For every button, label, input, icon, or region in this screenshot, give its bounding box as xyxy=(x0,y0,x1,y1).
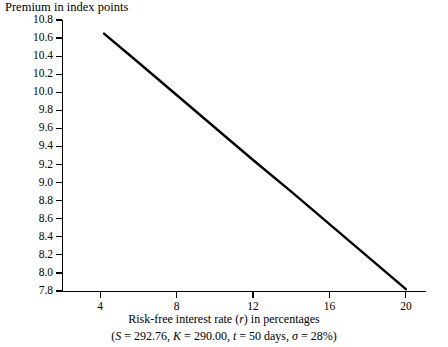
x-axis-title: Risk-free interest rate (r) in percentag… xyxy=(0,312,448,326)
y-axis-tick xyxy=(56,146,62,147)
y-axis-tick-label: 8.2 xyxy=(39,249,53,261)
y-axis-tick xyxy=(56,200,62,201)
x-axis-line xyxy=(62,291,426,292)
y-axis-tick-label: 8.8 xyxy=(39,195,53,207)
x-axis-tick-label: 4 xyxy=(97,300,103,312)
y-axis-tick xyxy=(56,164,62,165)
y-axis-tick xyxy=(56,110,62,111)
y-axis-tick-label: 7.8 xyxy=(39,285,53,297)
y-axis-tick-label: 10.8 xyxy=(33,14,53,26)
y-axis-tick xyxy=(56,218,62,219)
chart-figure: Premium in index points Risk-free intere… xyxy=(0,0,448,347)
plot-area xyxy=(62,20,425,291)
y-axis-tick xyxy=(56,56,62,57)
y-axis-tick-label: 10.6 xyxy=(33,32,53,44)
y-axis-tick-label: 9.8 xyxy=(39,104,53,116)
y-axis-tick-label: 9.2 xyxy=(39,159,53,171)
y-axis-tick-label: 9.0 xyxy=(39,177,53,189)
parameter-caption-part-8: = 28%) xyxy=(298,329,337,343)
y-axis-tick xyxy=(56,19,62,20)
y-axis-tick-label: 10.0 xyxy=(33,86,53,98)
x-axis-title-before: Risk-free interest rate ( xyxy=(128,312,239,326)
y-axis-tick xyxy=(56,290,62,291)
y-axis-tick-label: 8.4 xyxy=(39,231,53,243)
x-axis-tick xyxy=(100,292,101,298)
y-axis-tick-label: 9.4 xyxy=(39,140,53,152)
x-axis-tick xyxy=(329,292,330,298)
x-axis-tick xyxy=(176,292,177,298)
x-axis-tick-label: 20 xyxy=(400,300,412,312)
y-axis-tick xyxy=(56,272,62,273)
x-axis-tick-label: 12 xyxy=(247,300,259,312)
x-axis-tick-label: 16 xyxy=(324,300,336,312)
parameter-caption-part-2: = 292.76, xyxy=(121,329,173,343)
y-axis-tick-label: 9.6 xyxy=(39,122,53,134)
y-axis-tick xyxy=(56,236,62,237)
y-axis-tick xyxy=(56,74,62,75)
y-axis-tick xyxy=(56,254,62,255)
y-axis-tick-label: 8.6 xyxy=(39,213,53,225)
x-axis-tick xyxy=(252,292,253,298)
y-axis-title: Premium in index points xyxy=(5,0,128,14)
y-axis-tick xyxy=(56,92,62,93)
parameter-caption-part-3: K xyxy=(173,329,181,343)
y-axis-tick xyxy=(56,128,62,129)
y-axis-tick-label: 8.0 xyxy=(39,267,53,279)
y-axis-tick xyxy=(56,37,62,38)
x-axis-tick-label: 8 xyxy=(174,300,180,312)
y-axis-tick-label: 10.2 xyxy=(33,68,53,80)
y-axis-tick-label: 10.4 xyxy=(33,50,53,62)
parameter-caption-part-6: = 50 days, xyxy=(236,329,292,343)
x-axis-tick xyxy=(405,292,406,298)
y-axis-tick xyxy=(56,182,62,183)
x-axis-title-after: ) in percentages xyxy=(244,312,320,326)
parameter-caption-part-4: = 290.00, xyxy=(181,329,233,343)
parameter-caption: (S = 292.76, K = 290.00, t = 50 days, σ … xyxy=(0,329,448,343)
